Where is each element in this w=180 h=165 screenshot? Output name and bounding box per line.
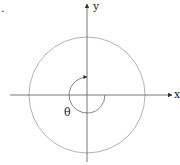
corner-mark: .: [1, 2, 5, 15]
y-axis-label: y: [92, 0, 100, 13]
polar-diagram: . x y θ: [0, 0, 180, 165]
angle-label: θ: [64, 106, 71, 119]
x-axis-label: x: [174, 88, 180, 101]
